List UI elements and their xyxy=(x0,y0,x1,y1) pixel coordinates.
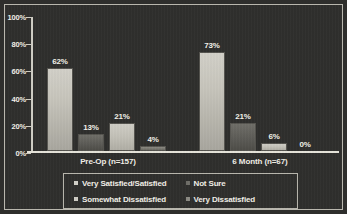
y-axis-label-60: 60% xyxy=(12,67,26,76)
bar-fill xyxy=(109,123,135,151)
legend-label: Very Dissatisfied xyxy=(194,195,256,204)
bar-value-label: 21% xyxy=(235,112,250,121)
bar-group-6-month: 73% 21% 6% 0% xyxy=(199,17,339,151)
bar-value-label: 21% xyxy=(114,112,129,121)
plot-area: 100% 80% 60% 40% 20% 0% 62% xyxy=(31,17,339,153)
legend-item-very-dissatisfied[interactable]: Very Dissatisfied xyxy=(186,195,298,204)
legend-swatch-icon xyxy=(74,197,78,201)
y-tick-60 xyxy=(26,71,31,72)
category-label-6-month: 6 Month (n=67) xyxy=(232,157,287,166)
bars-layer: 62% 13% 21% 4% xyxy=(33,17,339,151)
y-axis-label-40: 40% xyxy=(12,94,26,103)
y-tick-40 xyxy=(26,99,31,100)
bar-value-label: 0% xyxy=(299,140,310,149)
bar-value-label: 4% xyxy=(147,135,158,144)
legend-item-somewhat-dissatisfied[interactable]: Somewhat Dissatisfied xyxy=(74,195,186,204)
bar-fill xyxy=(140,146,166,152)
bar-fill xyxy=(230,123,256,151)
legend-label: Somewhat Dissatisfied xyxy=(82,195,166,204)
bar-fill xyxy=(47,68,73,151)
x-axis-line xyxy=(27,151,339,153)
y-tick-20 xyxy=(26,126,31,127)
legend-swatch-icon xyxy=(186,181,190,185)
bar-group-pre-op: 62% 13% 21% 4% xyxy=(47,17,187,151)
legend-item-very-satisfied[interactable]: Very Satisfied/Satisfied xyxy=(74,179,186,188)
y-axis-label-20: 20% xyxy=(12,121,26,130)
category-label-pre-op: Pre-Op (n=157) xyxy=(80,157,136,166)
bar-fill xyxy=(261,143,287,151)
legend-swatch-icon xyxy=(186,197,190,201)
bar-value-label: 73% xyxy=(204,41,219,50)
chart-legend: Very Satisfied/Satisfied Not Sure Somewh… xyxy=(63,173,298,209)
bar-value-label: 62% xyxy=(52,57,67,66)
legend-item-not-sure[interactable]: Not Sure xyxy=(186,179,298,188)
y-tick-80 xyxy=(26,44,31,45)
category-axis-labels: Pre-Op (n=157) 6 Month (n=67) xyxy=(31,157,339,171)
y-tick-0 xyxy=(26,153,31,154)
y-axis-label-100: 100% xyxy=(8,13,26,22)
y-axis-label-80: 80% xyxy=(12,40,26,49)
legend-label: Not Sure xyxy=(194,179,226,188)
legend-label: Very Satisfied/Satisfied xyxy=(82,179,166,188)
y-tick-100 xyxy=(26,17,31,18)
legend-swatch-icon xyxy=(74,181,78,185)
satisfaction-bar-chart: 100% 80% 60% 40% 20% 0% 62% xyxy=(0,0,347,214)
bar-value-label: 6% xyxy=(268,132,279,141)
bar-fill xyxy=(199,52,225,151)
chart-frame: 100% 80% 60% 40% 20% 0% 62% xyxy=(4,4,343,210)
y-axis-label-0: 0% xyxy=(16,149,26,158)
bar-fill xyxy=(78,134,104,152)
bar-value-label: 13% xyxy=(83,123,98,132)
